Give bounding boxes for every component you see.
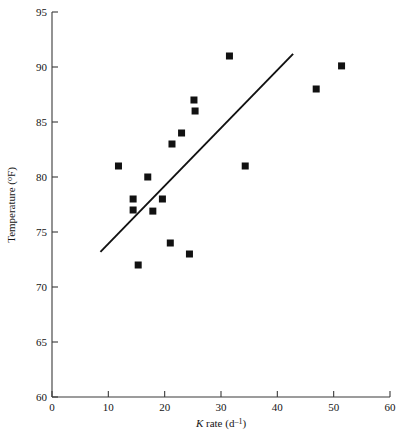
y-tick-label: 95 xyxy=(36,6,48,18)
data-point-marker xyxy=(167,240,174,247)
data-point-marker xyxy=(226,53,233,60)
x-axis-title: K rate (d–1) xyxy=(195,417,247,431)
data-point-marker xyxy=(130,207,137,214)
x-axis-ticks: 0102030405060 xyxy=(49,391,396,413)
data-point-marker xyxy=(190,97,197,104)
data-point-marker xyxy=(135,262,142,269)
data-points xyxy=(115,53,345,269)
y-tick-label: 60 xyxy=(36,391,48,403)
x-tick-label: 50 xyxy=(328,401,340,413)
chart-canvas: 6065707580859095 0102030405060 K rate (d… xyxy=(0,0,401,437)
y-tick-label: 70 xyxy=(36,281,48,293)
data-point-marker xyxy=(313,86,320,93)
data-point-marker xyxy=(178,130,185,137)
data-point-marker xyxy=(192,108,199,115)
data-point-marker xyxy=(168,141,175,148)
data-point-marker xyxy=(242,163,249,170)
y-tick-label: 65 xyxy=(36,336,48,348)
y-tick-label: 75 xyxy=(36,226,48,238)
x-tick-label: 0 xyxy=(49,401,55,413)
data-point-marker xyxy=(186,251,193,258)
y-axis-ticks: 6065707580859095 xyxy=(36,6,58,403)
data-point-marker xyxy=(149,208,156,215)
data-point-marker xyxy=(338,62,345,69)
y-tick-label: 90 xyxy=(36,61,48,73)
y-axis-title: Temperature (oF) xyxy=(5,167,19,243)
trend-line xyxy=(100,54,293,252)
x-tick-label: 40 xyxy=(272,401,284,413)
y-tick-label: 80 xyxy=(36,171,48,183)
data-point-marker xyxy=(115,163,122,170)
x-tick-label: 10 xyxy=(103,401,115,413)
x-tick-label: 60 xyxy=(385,401,397,413)
y-tick-label: 85 xyxy=(36,116,48,128)
scatter-chart: 6065707580859095 0102030405060 K rate (d… xyxy=(0,0,401,437)
x-tick-label: 30 xyxy=(216,401,228,413)
x-tick-label: 20 xyxy=(159,401,171,413)
data-point-marker xyxy=(130,196,137,203)
data-point-marker xyxy=(144,174,151,181)
data-point-marker xyxy=(159,196,166,203)
